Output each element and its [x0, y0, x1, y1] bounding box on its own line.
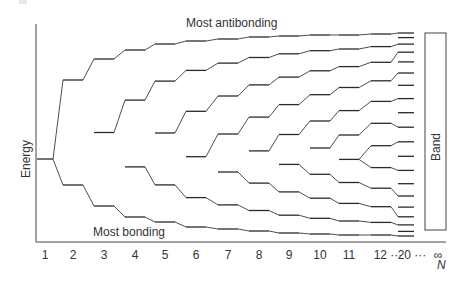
level-connector — [114, 50, 125, 59]
level-connector — [391, 207, 398, 217]
level-connector — [391, 73, 398, 81]
level-connector — [391, 188, 398, 196]
x-tick-label: 2 — [70, 248, 77, 262]
level-connector — [391, 123, 398, 127]
level-connector — [330, 67, 339, 71]
level-connector — [330, 174, 339, 182]
x-tick-label: 8 — [256, 248, 263, 262]
level-connector — [175, 111, 186, 133]
level-connector — [238, 205, 249, 211]
level-connector — [145, 81, 155, 100]
x-tick-label: 10 — [313, 248, 327, 262]
band-box — [425, 33, 446, 230]
level-connector — [391, 142, 398, 146]
level-connector — [269, 183, 279, 192]
level-connector — [269, 36, 279, 37]
level-connector — [391, 222, 398, 225]
energy-axis-label: Energy — [19, 140, 33, 178]
x-tick-label: 20 ··· — [398, 248, 427, 262]
x-tick-label: 1 — [42, 248, 49, 262]
level-connector — [391, 235, 398, 236]
level-connector — [359, 47, 371, 49]
level-connector — [299, 35, 310, 36]
level-connector — [299, 121, 310, 135]
level-connector — [299, 164, 310, 174]
level-connector — [238, 58, 249, 64]
n-axis-label: N — [437, 258, 446, 272]
level-connector — [330, 135, 339, 148]
level-connector — [269, 54, 279, 58]
most-antibonding-label: Most antibonding — [186, 16, 277, 30]
level-connector — [299, 51, 310, 54]
level-connector — [330, 88, 339, 95]
level-connector — [359, 101, 371, 110]
most-bonding-label: Most bonding — [93, 225, 165, 239]
level-connector — [269, 211, 279, 216]
level-connector — [114, 206, 125, 217]
level-connector — [269, 105, 279, 118]
level-connector — [391, 168, 398, 171]
level-connector — [175, 41, 186, 44]
level-connector — [175, 70, 186, 81]
level-connector — [206, 63, 218, 70]
level-connector — [359, 183, 371, 189]
level-connector — [391, 44, 398, 47]
level-connector — [206, 227, 218, 229]
level-connector — [145, 167, 155, 185]
level-connector — [299, 192, 310, 198]
level-connector — [83, 185, 94, 206]
level-connector — [359, 34, 371, 35]
level-connector — [359, 81, 371, 88]
level-connector — [359, 203, 371, 206]
band-label: Band — [429, 133, 443, 161]
level-connector — [53, 80, 63, 159]
level-connector — [114, 100, 125, 132]
level-connector — [269, 77, 279, 85]
level-connector — [359, 221, 371, 222]
level-connector — [53, 159, 63, 185]
x-tick-label: 9 — [286, 248, 293, 262]
level-connector — [391, 52, 398, 62]
level-connector — [299, 95, 310, 105]
level-connector — [206, 96, 218, 111]
level-connector — [175, 185, 186, 198]
level-connector — [206, 39, 218, 41]
level-connector — [83, 59, 94, 80]
level-connector — [330, 198, 339, 203]
level-connector — [391, 33, 398, 34]
level-connector — [299, 233, 310, 234]
energy-level-diagram: Band Energy Most antibonding Most bondin… — [0, 0, 471, 282]
level-connector — [145, 217, 155, 222]
x-tick-label: 5 — [162, 248, 169, 262]
level-connector — [206, 198, 218, 205]
level-connector — [238, 172, 249, 183]
x-tick-labels: 123456789101112 ···20 ···∞ — [42, 248, 443, 262]
level-connector — [145, 44, 155, 50]
level-connector — [269, 135, 279, 151]
level-connector — [238, 37, 249, 39]
level-connector — [359, 62, 371, 66]
level-connector — [330, 218, 339, 221]
x-tick-label: 3 — [101, 248, 108, 262]
x-tick-label: 4 — [132, 248, 139, 262]
level-connector — [330, 111, 339, 121]
x-tick-label: 7 — [225, 248, 232, 262]
level-connector — [175, 222, 186, 227]
x-tick-label: 6 — [193, 248, 200, 262]
level-connector — [269, 231, 279, 233]
level-connector — [359, 123, 371, 135]
level-connector — [299, 71, 310, 77]
level-connector — [359, 146, 371, 160]
level-connector — [299, 215, 310, 218]
level-connector — [359, 159, 371, 167]
level-connector — [391, 99, 398, 102]
x-tick-label: 11 — [343, 248, 356, 262]
level-connector — [238, 85, 249, 96]
level-connector — [206, 134, 218, 157]
level-connector — [238, 117, 249, 134]
level-connector — [330, 234, 339, 235]
level-connector — [330, 49, 339, 51]
level-connector — [238, 229, 249, 231]
